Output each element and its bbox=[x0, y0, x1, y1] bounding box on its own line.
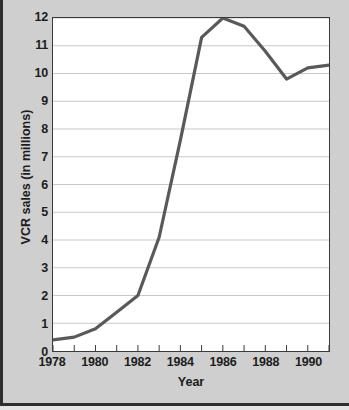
page-margin-bottom bbox=[0, 406, 349, 410]
y-tick-label-10: 10 bbox=[4, 66, 48, 80]
x-tick-label-1980: 1980 bbox=[81, 355, 108, 369]
x-tick-label-1984: 1984 bbox=[167, 355, 194, 369]
x-tick-label-1982: 1982 bbox=[124, 355, 151, 369]
data-line-vcr-sales bbox=[53, 18, 329, 351]
y-tick-label-2: 2 bbox=[4, 289, 48, 303]
x-tick-label-1986: 1986 bbox=[210, 355, 237, 369]
x-axis-tick-labels: 1978198019821984198619881990 bbox=[52, 355, 330, 373]
x-tick-label-1990: 1990 bbox=[295, 355, 322, 369]
chart-page: 0123456789101112 19781980198219841986198… bbox=[0, 0, 349, 410]
x-axis-title: Year bbox=[52, 375, 330, 389]
y-tick-label-12: 12 bbox=[4, 10, 48, 24]
y-axis-title: VCR sales (in millions) bbox=[19, 87, 33, 267]
x-tick-label-1978: 1978 bbox=[38, 355, 65, 369]
x-tick-label-1988: 1988 bbox=[252, 355, 279, 369]
y-tick-label-11: 11 bbox=[4, 38, 48, 52]
plot-area bbox=[52, 17, 330, 352]
y-tick-label-1: 1 bbox=[4, 317, 48, 331]
